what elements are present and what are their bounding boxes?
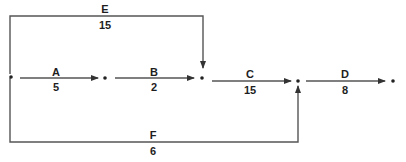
- activity-a-name: A: [52, 67, 60, 78]
- activity-d-duration: 8: [342, 85, 348, 96]
- node-5: [391, 79, 395, 83]
- activity-d-name: D: [341, 69, 349, 80]
- activity-c-duration: 15: [244, 85, 256, 96]
- activity-e-name: E: [101, 4, 108, 15]
- network-diagram: E 15 A 5 B 2 C 15 D 8 F 6: [0, 0, 406, 162]
- activity-b-name: B: [150, 67, 158, 78]
- network-canvas: [0, 0, 406, 162]
- node-2: [103, 76, 107, 80]
- activity-e-duration: 15: [99, 20, 111, 31]
- node-3: [200, 76, 204, 80]
- activity-a-duration: 5: [53, 82, 59, 93]
- node-4: [296, 79, 300, 83]
- activity-b-duration: 2: [151, 82, 157, 93]
- activity-c-name: C: [246, 69, 254, 80]
- activity-f-name: F: [150, 130, 157, 141]
- node-1: [9, 75, 13, 79]
- activity-f-duration: 6: [150, 146, 156, 157]
